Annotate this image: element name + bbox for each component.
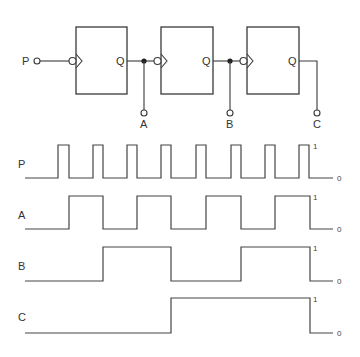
clock-inversion-bubble-icon (240, 58, 247, 65)
counter-diagram: P Q A Q B Q (0, 0, 360, 357)
flip-flop-3: Q (240, 27, 299, 94)
signal-label-c: C (18, 311, 26, 323)
output-label-a: A (140, 118, 148, 130)
signal-label-p: P (18, 158, 25, 170)
level-low-a: 0 (337, 225, 342, 234)
level-low-b: 0 (337, 277, 342, 286)
waveform-p (25, 145, 333, 178)
signal-label-b: B (18, 260, 25, 272)
signal-label-a: A (18, 209, 26, 221)
input-terminal-p (34, 58, 40, 64)
output-terminal-b (227, 110, 233, 116)
level-high-c: 1 (313, 295, 318, 304)
output-terminal-c (314, 110, 320, 116)
circuit: P Q A Q B Q (22, 27, 321, 130)
clock-inversion-bubble-icon (154, 58, 161, 65)
waveform-b (25, 247, 333, 281)
output-label-b: B (226, 118, 233, 130)
level-high-a: 1 (313, 193, 318, 202)
input-label-p: P (22, 55, 29, 67)
wire-q3 (299, 61, 317, 110)
timing-diagram: P 1 0 A 1 0 B 1 0 C 1 0 (18, 142, 342, 338)
waveform-c (25, 298, 333, 333)
clock-inversion-bubble-icon (69, 58, 76, 65)
level-high-p: 1 (313, 142, 318, 151)
ff3-q-label: Q (288, 55, 297, 67)
flip-flop-2: Q (154, 27, 213, 94)
level-low-p: 0 (337, 174, 342, 183)
ff1-q-label: Q (116, 55, 125, 67)
flip-flop-1: Q (69, 27, 127, 94)
ff2-q-label: Q (202, 55, 211, 67)
waveform-a (25, 196, 333, 229)
output-label-c: C (313, 118, 321, 130)
level-high-b: 1 (313, 244, 318, 253)
level-low-c: 0 (337, 329, 342, 338)
output-terminal-a (141, 110, 147, 116)
